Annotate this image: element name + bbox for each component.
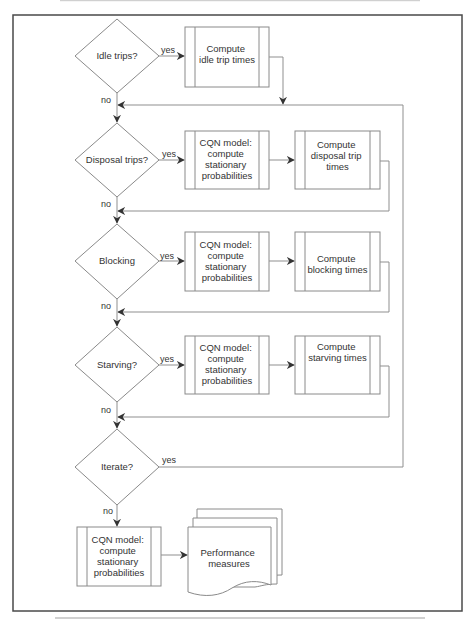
process-cqn-model-disposal: CQN model: compute stationary probabilit… [185,131,269,189]
edge-label-no: no [101,405,111,415]
edge-label-yes: yes [160,251,175,261]
edge-label-yes: yes [162,149,177,159]
decision-starving: Starving? [75,327,159,402]
process-line: probabilities [202,375,253,386]
process-cqn-model-starving: CQN model: compute stationary probabilit… [185,336,269,394]
process-line: stationary [205,261,246,272]
process-line: stationary [205,364,246,375]
decision-label: Idle trips? [96,50,137,61]
decision-disposal-trips: Disposal trips? [75,123,159,197]
decision-iterate: Iterate? [75,429,159,505]
svg-text:Compute idle trip times: Compute idle trip times [199,43,255,65]
decision-label: Disposal trips? [86,154,148,165]
process-line: probabilities [94,567,145,578]
decision-label: Starving? [97,359,137,370]
document-performance-measures: Performance measures [188,509,282,595]
process-line: compute [99,545,135,556]
svg-text:CQN model: compute: CQN model: compute stationary probabilit… [200,239,255,283]
process-line: idle trip times [199,54,255,65]
decision-idle-trips: Idle trips? [75,19,159,93]
svg-text:CQN model: compute: CQN model: compute stationary probabilit… [92,534,147,578]
process-line: Compute [206,43,245,54]
process-line: CQN model: [200,137,252,148]
process-line: Compute [317,341,356,352]
decision-label: Blocking [99,255,135,266]
edge-label-no: no [101,95,111,105]
process-line: Compute [317,253,356,264]
process-compute-disposal-trip-times: Compute disposal trip times [295,131,380,189]
edge-label-no: no [103,506,113,516]
process-line: times [326,161,349,172]
process-cqn-model-blocking: CQN model: compute stationary probabilit… [185,232,269,291]
process-compute-starving-times: Compute starving times [295,336,380,394]
decision-blocking: Blocking [75,224,159,299]
edge-idle-compute-return [269,57,283,104]
flowchart-canvas: Idle trips? Disposal trips? Blocking Sta… [0,0,474,619]
edge-label-no: no [101,199,111,209]
process-line: probabilities [202,170,253,181]
edge-label-no: no [101,301,111,311]
edge-label-yes: yes [161,45,176,55]
edge-label-yes: yes [160,354,175,364]
process-compute-blocking-times: Compute blocking times [295,232,380,291]
process-compute-idle-trip-times: Compute idle trip times [185,27,269,87]
decision-label: Iterate? [101,461,133,472]
document-line: Performance [200,547,254,558]
process-line: compute [207,250,243,261]
process-line: Compute [317,139,356,150]
process-line: CQN model: [200,342,252,353]
edge-label-yes: yes [162,455,177,465]
process-line: CQN model: [200,239,252,250]
process-line: compute [207,353,243,364]
process-line: stationary [97,556,138,567]
process-line: CQN model: [92,534,144,545]
process-line: blocking times [307,264,367,275]
svg-text:CQN model: compute: CQN model: compute stationary probabilit… [200,342,255,386]
svg-text:Performance measures: Performance measures [200,547,257,569]
process-line: compute [207,148,243,159]
process-line: starving times [308,352,367,363]
process-line: disposal trip [311,150,362,161]
process-cqn-model-final: CQN model: compute stationary probabilit… [77,527,161,586]
document-line: measures [208,558,250,569]
svg-text:CQN model: compute: CQN model: compute stationary probabilit… [200,137,255,181]
cropped-caption-top [60,0,420,1]
process-line: probabilities [202,272,253,283]
process-line: stationary [205,159,246,170]
